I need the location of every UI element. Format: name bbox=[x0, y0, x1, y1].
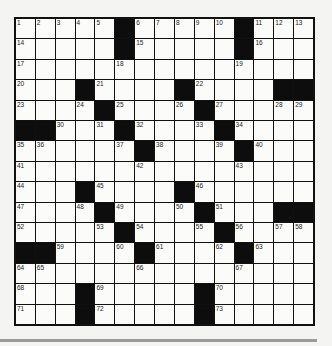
answer-square[interactable] bbox=[115, 182, 134, 201]
answer-square[interactable]: 6 bbox=[135, 19, 154, 38]
answer-square[interactable] bbox=[155, 264, 174, 283]
answer-square[interactable] bbox=[36, 182, 55, 201]
answer-square[interactable] bbox=[36, 60, 55, 79]
answer-square[interactable] bbox=[135, 101, 154, 120]
answer-square[interactable] bbox=[76, 141, 95, 160]
answer-square[interactable] bbox=[274, 305, 293, 324]
answer-square[interactable]: 61 bbox=[155, 243, 174, 262]
answer-square[interactable]: 57 bbox=[274, 223, 293, 242]
answer-square[interactable] bbox=[76, 243, 95, 262]
answer-square[interactable] bbox=[56, 264, 75, 283]
answer-square[interactable] bbox=[235, 284, 254, 303]
answer-square[interactable]: 27 bbox=[215, 101, 234, 120]
answer-square[interactable] bbox=[254, 223, 273, 242]
answer-square[interactable]: 36 bbox=[36, 141, 55, 160]
answer-square[interactable] bbox=[135, 80, 154, 99]
answer-square[interactable]: 72 bbox=[95, 305, 114, 324]
answer-square[interactable] bbox=[294, 305, 313, 324]
answer-square[interactable] bbox=[274, 39, 293, 58]
answer-square[interactable] bbox=[274, 60, 293, 79]
answer-square[interactable]: 25 bbox=[115, 101, 134, 120]
answer-square[interactable]: 60 bbox=[115, 243, 134, 262]
answer-square[interactable]: 34 bbox=[235, 121, 254, 140]
answer-square[interactable] bbox=[274, 141, 293, 160]
answer-square[interactable]: 3 bbox=[56, 19, 75, 38]
answer-square[interactable] bbox=[56, 182, 75, 201]
answer-square[interactable] bbox=[254, 182, 273, 201]
answer-square[interactable] bbox=[175, 243, 194, 262]
answer-square[interactable] bbox=[155, 182, 174, 201]
answer-square[interactable] bbox=[36, 39, 55, 58]
answer-square[interactable] bbox=[215, 264, 234, 283]
answer-square[interactable] bbox=[56, 60, 75, 79]
answer-square[interactable]: 55 bbox=[195, 223, 214, 242]
answer-square[interactable] bbox=[76, 264, 95, 283]
answer-square[interactable] bbox=[76, 121, 95, 140]
answer-square[interactable] bbox=[294, 162, 313, 181]
answer-square[interactable] bbox=[254, 264, 273, 283]
answer-square[interactable]: 51 bbox=[215, 203, 234, 222]
answer-square[interactable]: 15 bbox=[135, 39, 154, 58]
answer-square[interactable] bbox=[155, 223, 174, 242]
answer-square[interactable] bbox=[155, 162, 174, 181]
answer-square[interactable] bbox=[135, 203, 154, 222]
answer-square[interactable] bbox=[215, 162, 234, 181]
answer-square[interactable]: 41 bbox=[16, 162, 35, 181]
answer-square[interactable] bbox=[195, 264, 214, 283]
answer-square[interactable] bbox=[175, 223, 194, 242]
answer-square[interactable] bbox=[115, 80, 134, 99]
answer-square[interactable]: 16 bbox=[254, 39, 273, 58]
answer-square[interactable]: 10 bbox=[215, 19, 234, 38]
answer-square[interactable] bbox=[95, 60, 114, 79]
answer-square[interactable] bbox=[254, 101, 273, 120]
answer-square[interactable]: 8 bbox=[175, 19, 194, 38]
answer-square[interactable] bbox=[254, 80, 273, 99]
answer-square[interactable]: 58 bbox=[294, 223, 313, 242]
answer-square[interactable] bbox=[274, 243, 293, 262]
answer-square[interactable]: 53 bbox=[95, 223, 114, 242]
answer-square[interactable]: 56 bbox=[235, 223, 254, 242]
answer-square[interactable]: 22 bbox=[195, 80, 214, 99]
answer-square[interactable] bbox=[56, 223, 75, 242]
answer-square[interactable] bbox=[215, 60, 234, 79]
answer-square[interactable] bbox=[175, 121, 194, 140]
answer-square[interactable] bbox=[56, 162, 75, 181]
answer-square[interactable]: 70 bbox=[215, 284, 234, 303]
answer-square[interactable]: 43 bbox=[235, 162, 254, 181]
answer-square[interactable] bbox=[56, 203, 75, 222]
answer-square[interactable]: 23 bbox=[16, 101, 35, 120]
answer-square[interactable] bbox=[175, 162, 194, 181]
answer-square[interactable] bbox=[155, 305, 174, 324]
answer-square[interactable] bbox=[235, 305, 254, 324]
answer-square[interactable] bbox=[95, 264, 114, 283]
answer-square[interactable]: 1 bbox=[16, 19, 35, 38]
answer-square[interactable]: 59 bbox=[56, 243, 75, 262]
answer-square[interactable] bbox=[175, 60, 194, 79]
answer-square[interactable] bbox=[135, 60, 154, 79]
answer-square[interactable]: 54 bbox=[135, 223, 154, 242]
answer-square[interactable] bbox=[175, 264, 194, 283]
answer-square[interactable]: 71 bbox=[16, 305, 35, 324]
answer-square[interactable] bbox=[36, 284, 55, 303]
answer-square[interactable]: 21 bbox=[95, 80, 114, 99]
answer-square[interactable]: 66 bbox=[135, 264, 154, 283]
answer-square[interactable] bbox=[274, 121, 293, 140]
answer-square[interactable] bbox=[215, 80, 234, 99]
answer-square[interactable]: 73 bbox=[215, 305, 234, 324]
answer-square[interactable] bbox=[95, 141, 114, 160]
answer-square[interactable]: 31 bbox=[95, 121, 114, 140]
answer-square[interactable] bbox=[95, 243, 114, 262]
answer-square[interactable] bbox=[36, 305, 55, 324]
answer-square[interactable]: 63 bbox=[254, 243, 273, 262]
answer-square[interactable]: 35 bbox=[16, 141, 35, 160]
answer-square[interactable]: 9 bbox=[195, 19, 214, 38]
answer-square[interactable] bbox=[195, 141, 214, 160]
answer-square[interactable] bbox=[155, 80, 174, 99]
answer-square[interactable]: 44 bbox=[16, 182, 35, 201]
answer-square[interactable] bbox=[274, 162, 293, 181]
answer-square[interactable]: 13 bbox=[294, 19, 313, 38]
answer-square[interactable] bbox=[294, 284, 313, 303]
answer-square[interactable] bbox=[155, 203, 174, 222]
answer-square[interactable] bbox=[195, 243, 214, 262]
answer-square[interactable] bbox=[254, 121, 273, 140]
